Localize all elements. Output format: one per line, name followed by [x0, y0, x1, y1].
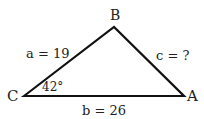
- side-label-a: a = 19: [26, 46, 69, 61]
- vertex-label-c: C: [7, 87, 18, 105]
- vertex-label-b: B: [110, 7, 120, 23]
- triangle-diagram: B C A a = 19 c = ? b = 26 42°: [0, 0, 204, 119]
- angle-label-c: 42°: [42, 80, 63, 94]
- vertex-label-a: A: [186, 87, 198, 105]
- side-label-b: b = 26: [82, 103, 126, 118]
- side-label-c: c = ?: [156, 48, 189, 63]
